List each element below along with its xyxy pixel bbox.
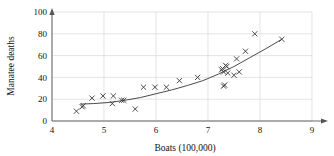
y-axis-title: Manatee deaths <box>6 36 16 96</box>
data-point-marker <box>225 70 230 75</box>
y-tick-label: 100 <box>34 7 48 17</box>
x-tick-label: 6 <box>154 125 159 135</box>
data-point-marker <box>234 56 239 61</box>
plot-canvas: 456789020406080100 Boats (100,000) Manat… <box>0 0 334 156</box>
x-tick-label: 7 <box>206 125 211 135</box>
gridlines-group <box>52 12 312 121</box>
y-tick-label: 40 <box>38 73 48 83</box>
trend-curve <box>81 39 282 104</box>
data-point-marker <box>237 69 242 74</box>
x-tick-label: 9 <box>310 125 315 135</box>
x-tick-label: 4 <box>50 125 55 135</box>
x-tick-label: 5 <box>102 125 107 135</box>
y-tick-label: 0 <box>43 116 48 126</box>
data-point-marker <box>111 93 116 98</box>
data-point-marker <box>141 85 146 90</box>
axes-group <box>49 8 328 124</box>
data-point-marker <box>74 109 79 114</box>
data-point-marker <box>231 73 236 78</box>
x-tick-label: 8 <box>258 125 263 135</box>
data-point-marker <box>279 37 284 42</box>
y-tick-label: 60 <box>38 51 48 61</box>
data-point-marker <box>164 85 169 90</box>
fit-curve <box>81 39 282 104</box>
tick-labels-group: 456789020406080100 <box>34 7 315 135</box>
data-point-marker <box>89 96 94 101</box>
y-axis-arrow <box>49 8 54 15</box>
data-points-group <box>74 31 285 114</box>
y-tick-label: 20 <box>38 94 48 104</box>
data-point-marker <box>243 49 248 54</box>
y-tick-label: 80 <box>38 29 48 39</box>
scatter-plot-figure: 456789020406080100 Boats (100,000) Manat… <box>0 0 334 156</box>
x-axis-arrow <box>321 118 328 123</box>
data-point-marker <box>177 78 182 83</box>
x-axis-title: Boats (100,000) <box>154 143 215 154</box>
data-point-marker <box>100 93 105 98</box>
data-point-marker <box>133 106 138 111</box>
data-point-marker <box>152 85 157 90</box>
